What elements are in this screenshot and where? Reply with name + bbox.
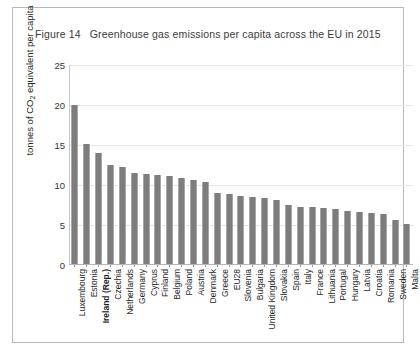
bar-slot <box>330 65 342 264</box>
bar <box>226 194 233 264</box>
bar <box>154 175 161 264</box>
x-axis-category-label: Malta <box>401 269 413 354</box>
bar <box>380 214 387 264</box>
bar <box>392 220 399 264</box>
bar-slot <box>271 65 283 264</box>
x-axis-category-label: Belgium <box>164 269 176 354</box>
x-axis-category-label: Slovenia <box>235 269 247 354</box>
x-axis-category-label: Romania <box>377 269 389 354</box>
x-axis-category-label: Hungary <box>342 269 354 354</box>
bar-slot <box>105 65 117 264</box>
x-axis-category-label: Croatia <box>366 269 378 354</box>
bar <box>95 153 102 264</box>
bar-slot <box>342 65 354 264</box>
bar-slot <box>401 65 413 264</box>
bar <box>107 165 114 265</box>
x-axis-category-label: Netherlands <box>116 269 128 354</box>
x-axis-category-label: EU28 <box>223 269 235 354</box>
figure-container: Figure 14Greenhouse gas emissions per ca… <box>12 7 404 343</box>
y-axis-tick-label: 10 <box>31 180 65 191</box>
bar-slot <box>318 65 330 264</box>
x-axis-category-label: Czechia <box>105 269 117 354</box>
bar-series <box>69 65 413 264</box>
bar-slot <box>235 65 247 264</box>
bar <box>71 105 78 264</box>
bar-slot <box>354 65 366 264</box>
bar-slot <box>306 65 318 264</box>
x-axis-category-label: Latvia <box>354 269 366 354</box>
x-axis-category-label: Ireland (Rep.) <box>93 269 105 354</box>
x-axis-category-label: Spain <box>283 269 295 354</box>
bar <box>131 173 138 264</box>
x-axis-category-label: Lithuania <box>318 269 330 354</box>
bar <box>273 200 280 264</box>
bar <box>344 211 351 264</box>
bar-slot <box>282 65 294 264</box>
bar-slot <box>377 65 389 264</box>
figure-title-text: Greenhouse gas emissions per capita acro… <box>90 28 381 40</box>
x-axis-category-label: United Kingdom <box>259 269 271 354</box>
bar-slot <box>176 65 188 264</box>
x-axis-category-label: Italy <box>294 269 306 354</box>
bar <box>166 176 173 264</box>
x-axis-category-label: Slovakia <box>271 269 283 354</box>
bar-slot <box>247 65 259 264</box>
x-axis-category-label: Luxembourg <box>69 269 81 354</box>
bar <box>285 205 292 264</box>
x-axis-category-label: Portugal <box>330 269 342 354</box>
y-axis-tick-label: 5 <box>31 220 65 231</box>
bar <box>297 207 304 264</box>
bar-slot <box>140 65 152 264</box>
bar <box>214 193 221 264</box>
bar <box>320 208 327 264</box>
bar-slot <box>128 65 140 264</box>
bar-slot <box>152 65 164 264</box>
y-axis-tick-label: 25 <box>31 60 65 71</box>
y-axis-tick-label: 15 <box>31 140 65 151</box>
category-label-text: Malta <box>411 269 420 290</box>
y-axis-tick-label: 20 <box>31 100 65 111</box>
bar-slot <box>164 65 176 264</box>
y-axis-tick-label: 0 <box>31 260 65 271</box>
x-axis-category-label: Germany <box>128 269 140 354</box>
x-axis-category-label: Poland <box>176 269 188 354</box>
x-axis-category-label: Cyprus <box>140 269 152 354</box>
bar-slot <box>69 65 81 264</box>
y-axis-tick-labels: 0510152025 <box>27 65 65 265</box>
x-axis-category-label: Greece <box>211 269 223 354</box>
bar <box>309 207 316 264</box>
bar <box>237 196 244 264</box>
bar-slot <box>188 65 200 264</box>
bar-slot <box>259 65 271 264</box>
bar-slot <box>81 65 93 264</box>
figure-number: Figure 14 <box>35 28 81 40</box>
bar <box>356 212 363 264</box>
bar <box>202 182 209 264</box>
plot-area <box>69 65 413 265</box>
x-axis-category-label: Sweden <box>389 269 401 354</box>
x-axis-category-label: Finland <box>152 269 164 354</box>
bar-slot <box>365 65 377 264</box>
bar <box>190 180 197 264</box>
x-axis-category-label: France <box>306 269 318 354</box>
figure-title: Figure 14Greenhouse gas emissions per ca… <box>35 28 381 40</box>
bar <box>83 144 90 264</box>
bar <box>178 178 185 264</box>
bar-slot <box>211 65 223 264</box>
bar <box>368 213 375 264</box>
bar-slot <box>93 65 105 264</box>
bar-slot <box>389 65 401 264</box>
x-axis-category-label: Austria <box>188 269 200 354</box>
bar <box>249 197 256 264</box>
x-axis-category-label: Bulgaria <box>247 269 259 354</box>
x-axis-category-label: Denmark <box>199 269 211 354</box>
bar-slot <box>294 65 306 264</box>
bar <box>119 167 126 264</box>
bar-slot <box>199 65 211 264</box>
x-axis-category-labels: LuxembourgEstoniaIreland (Rep.)CzechiaNe… <box>69 269 413 354</box>
bar <box>261 198 268 264</box>
bar-slot <box>116 65 128 264</box>
bar-slot <box>223 65 235 264</box>
x-axis-line <box>69 264 413 265</box>
bar <box>143 174 150 264</box>
